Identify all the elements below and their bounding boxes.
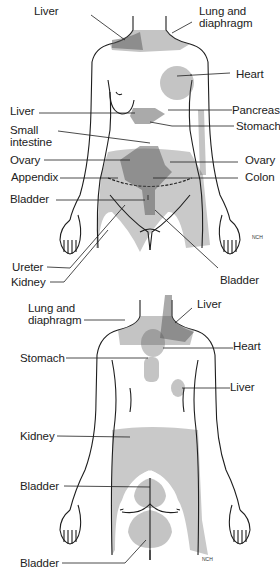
front-right-hand [219, 215, 240, 254]
back-view-figure [57, 295, 250, 563]
front-label-heart: Heart [236, 68, 264, 80]
back-heart-hatch [141, 329, 165, 357]
front-label-ovary-left: Ovary [10, 154, 40, 166]
back-label-bladder-mid: Bladder [20, 480, 59, 492]
front-left-hand [60, 215, 81, 254]
front-label-kidney: Kidney [11, 276, 46, 288]
back-label-bladder-bottom: Bladder [20, 557, 59, 569]
front-label-liver-top: Liver [34, 5, 58, 17]
front-label-pancreas: Pancreas [232, 104, 280, 116]
front-heart-hatch [160, 66, 194, 100]
front-signature: NCH [252, 234, 263, 240]
front-label-lung-diaphragm: Lung and diaphragm [199, 5, 252, 29]
front-side-hatch [198, 110, 206, 175]
back-label-liver-top: Liver [197, 298, 221, 310]
front-label-appendix: Appendix [11, 171, 58, 183]
front-liver-crosshatch [112, 32, 143, 50]
back-label-lung-diaphragm: Lung and diaphragm [28, 302, 81, 326]
front-label-bladder-left: Bladder [10, 193, 49, 205]
back-label-liver-mid: Liver [230, 381, 254, 393]
back-label-kidney: Kidney [20, 430, 55, 442]
front-stomach-pancreas-hatch [130, 108, 165, 124]
front-label-colon: Colon [245, 171, 275, 183]
front-label-liver-left: Liver [10, 105, 34, 117]
back-right-hand [229, 505, 250, 544]
back-left-hand [60, 505, 81, 544]
back-stomach-hatch [144, 357, 159, 382]
front-label-small-intestine: Small intestine [10, 124, 52, 148]
front-label-stomach: Stomach [236, 120, 280, 132]
front-label-ureter: Ureter [12, 261, 43, 273]
back-liver-crosshatch [160, 295, 194, 342]
back-label-heart: Heart [233, 340, 261, 352]
back-signature: NCH [202, 556, 213, 562]
back-label-stomach: Stomach [20, 352, 65, 364]
front-left-breast [110, 92, 134, 114]
front-label-bladder-right: Bladder [220, 274, 259, 286]
front-label-ovary-right: Ovary [245, 154, 275, 166]
front-view-figure [39, 15, 240, 282]
